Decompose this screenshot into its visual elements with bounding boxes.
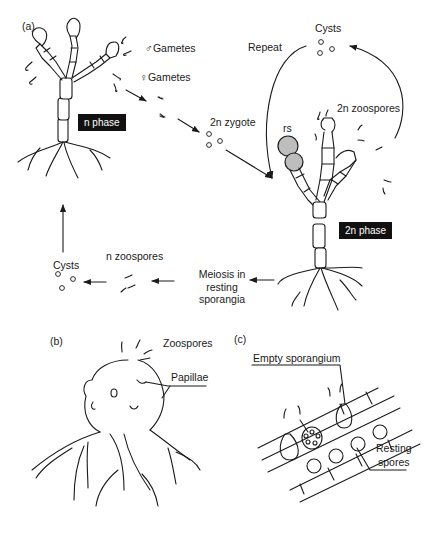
meiosis-line-1: Meiosis in bbox=[182, 268, 262, 281]
n-phase-badge: n phase bbox=[78, 114, 126, 131]
rs-label: rs bbox=[283, 122, 292, 134]
zygote-label: 2n zygote bbox=[210, 116, 256, 128]
bottom-cysts bbox=[56, 272, 76, 291]
cysts-top-label: Cysts bbox=[315, 22, 341, 34]
panel-label-a: (a) bbox=[22, 20, 35, 32]
n-zoospores-label: n zoospores bbox=[106, 250, 163, 262]
empty-sporangium-label: Empty sporangium bbox=[253, 352, 341, 364]
panel-b-drawing bbox=[32, 340, 206, 506]
male-gametes-label: ♂Gametes bbox=[145, 42, 195, 54]
female-gametes-label: ♀Gametes bbox=[140, 71, 190, 83]
papillae-label: Papillae bbox=[171, 371, 208, 383]
meiosis-label: Meiosis in resting sporangia bbox=[182, 268, 262, 306]
resting-line-2: spores bbox=[378, 456, 414, 469]
resting-line-1: Resting bbox=[376, 442, 412, 455]
meiosis-line-3: sporangia bbox=[182, 293, 262, 306]
zygote-cysts bbox=[207, 132, 223, 148]
n-zoospores bbox=[121, 275, 135, 292]
repeat-label: Repeat bbox=[248, 41, 282, 53]
panel-label-c: (c) bbox=[234, 333, 246, 345]
cysts-bottom-label: Cysts bbox=[53, 259, 79, 271]
panel-label-b: (b) bbox=[50, 335, 63, 347]
resting-spores-label: Resting spores bbox=[376, 460, 412, 486]
two-n-phase-thallus bbox=[278, 118, 362, 310]
resting-sporangium bbox=[285, 153, 303, 171]
meiosis-line-2: resting bbox=[182, 281, 262, 294]
two-n-phase-badge: 2n phase bbox=[339, 222, 392, 239]
two-n-zoospores-label: 2n zoospores bbox=[337, 102, 400, 114]
zoospores-label: Zoospores bbox=[163, 337, 213, 349]
top-cysts bbox=[318, 40, 335, 56]
n-phase-thallus bbox=[18, 18, 119, 178]
